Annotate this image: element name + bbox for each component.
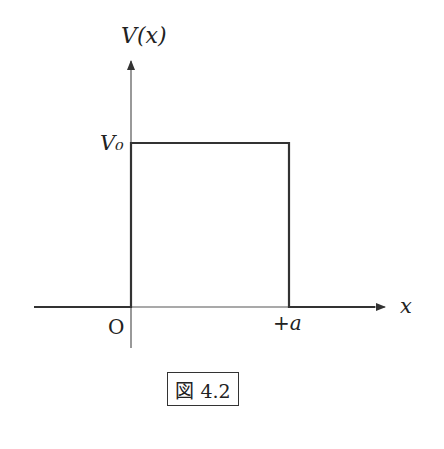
y-axis-label: V(x) [121, 23, 166, 48]
figure-caption: 図 4.2 [167, 372, 239, 406]
barrier-end-label: +a [273, 311, 302, 335]
x-axis-label: x [400, 294, 412, 318]
origin-label: O [108, 315, 124, 339]
potential-curve [34, 143, 375, 307]
barrier-height-label: V₀ [100, 131, 124, 155]
figure-caption-text: 図 4.2 [175, 376, 230, 403]
